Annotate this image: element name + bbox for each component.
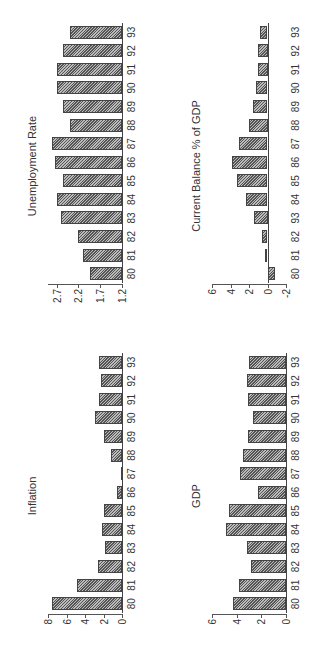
y-tick-mark xyxy=(122,284,123,288)
bar xyxy=(121,467,123,480)
x-tick-label: 89 xyxy=(126,428,137,446)
x-tick-label: 92 xyxy=(126,42,137,60)
plot-area: 1.21.72.22.78081828384858687888990919293 xyxy=(48,23,122,283)
y-tick-mark xyxy=(122,614,123,618)
bar xyxy=(254,212,268,225)
x-tick-label: 93 xyxy=(126,23,137,41)
bar xyxy=(239,579,286,592)
x-tick-label: 85 xyxy=(290,502,301,520)
bar xyxy=(70,26,122,39)
bar xyxy=(256,82,267,95)
bar xyxy=(243,449,286,462)
x-tick-label: 81 xyxy=(290,246,301,264)
x-tick-label: 89 xyxy=(290,98,301,116)
y-tick-label: 0 xyxy=(262,289,273,295)
x-tick-label: 80 xyxy=(290,265,301,283)
bar xyxy=(246,193,267,206)
x-tick-label: 93 xyxy=(290,209,301,227)
x-tick-label: 88 xyxy=(126,116,137,134)
y-tick-mark xyxy=(100,284,101,288)
y-tick-mark xyxy=(268,284,269,288)
y-tick-label: 1.2 xyxy=(117,289,128,303)
x-tick-label: 84 xyxy=(290,520,301,538)
y-tick-label: 0 xyxy=(281,619,292,625)
bar xyxy=(258,486,286,499)
x-tick-label: 86 xyxy=(126,483,137,501)
bar xyxy=(251,560,286,573)
y-tick-mark xyxy=(212,284,213,288)
bar xyxy=(90,267,122,280)
bar xyxy=(61,212,122,225)
y-tick-mark xyxy=(78,284,79,288)
x-tick-label: 83 xyxy=(290,539,301,557)
y-tick-label: 0 xyxy=(117,619,128,625)
x-tick-label: 83 xyxy=(126,539,137,557)
bar xyxy=(253,412,286,425)
bar xyxy=(104,430,123,443)
panel-unemployment: Unemployment Rate 1.21.72.22.78081828384… xyxy=(0,1,164,331)
bar xyxy=(99,356,122,369)
x-tick-label: 93 xyxy=(126,353,137,371)
x-tick-label: 92 xyxy=(290,372,301,390)
x-tick-label: 87 xyxy=(290,135,301,153)
bar xyxy=(249,119,268,132)
bar xyxy=(83,249,122,262)
bar xyxy=(237,174,268,187)
y-tick-label: 4 xyxy=(225,289,236,295)
x-tick-label: 82 xyxy=(290,228,301,246)
x-tick-label: 92 xyxy=(126,372,137,390)
x-tick-label: 89 xyxy=(126,98,137,116)
bar xyxy=(101,374,122,387)
bar xyxy=(262,230,268,243)
bar xyxy=(52,597,122,610)
bar xyxy=(240,467,286,480)
x-axis xyxy=(122,23,123,283)
x-tick-label: 81 xyxy=(126,246,137,264)
bar xyxy=(104,504,123,517)
bar xyxy=(99,393,122,406)
bar xyxy=(233,597,286,610)
y-tick-mark xyxy=(212,614,213,618)
bar xyxy=(248,393,286,406)
bar xyxy=(57,193,122,206)
x-tick-label: 90 xyxy=(290,79,301,97)
bar xyxy=(63,100,122,113)
bar xyxy=(268,267,275,280)
x-tick-label: 84 xyxy=(126,520,137,538)
y-tick-label: 4 xyxy=(80,619,91,625)
x-tick-label: 85 xyxy=(126,172,137,190)
x-axis xyxy=(286,353,287,613)
x-axis xyxy=(268,23,269,283)
x-tick-label: 80 xyxy=(126,265,137,283)
x-tick-label: 93 xyxy=(290,353,301,371)
x-tick-label: 91 xyxy=(290,60,301,78)
bar xyxy=(229,504,286,517)
bar xyxy=(63,44,122,57)
y-tick-label: 2 xyxy=(256,619,267,625)
bar xyxy=(117,486,122,499)
y-tick-mark xyxy=(85,614,86,618)
y-tick-mark xyxy=(286,614,287,618)
y-tick-mark xyxy=(67,614,68,618)
x-tick-label: 83 xyxy=(126,209,137,227)
bar xyxy=(249,356,286,369)
y-tick-mark xyxy=(57,284,58,288)
y-tick-label: 6 xyxy=(61,619,72,625)
bar xyxy=(253,100,268,113)
plot-area: 02468081828384858687888990919293 xyxy=(212,353,286,613)
y-tick-label: -2 xyxy=(281,289,292,298)
x-tick-label: 91 xyxy=(290,390,301,408)
y-tick-label: 6 xyxy=(207,619,218,625)
x-tick-label: 82 xyxy=(126,558,137,576)
x-tick-label: 88 xyxy=(126,446,137,464)
x-tick-label: 81 xyxy=(126,576,137,594)
panel-title: Current Balance % of GDP xyxy=(190,1,202,331)
y-tick-mark xyxy=(286,284,287,288)
y-tick-label: 1.7 xyxy=(95,289,106,303)
bar xyxy=(258,44,267,57)
plot-area: 024688081828384858687888990919293 xyxy=(48,353,122,613)
bar xyxy=(57,82,122,95)
bar xyxy=(52,137,122,150)
x-tick-label: 87 xyxy=(126,465,137,483)
y-axis xyxy=(212,614,286,615)
